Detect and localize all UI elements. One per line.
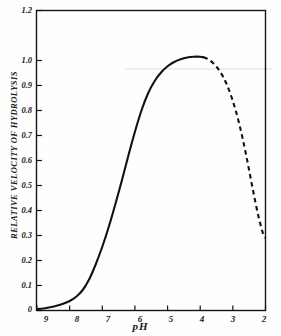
data-curve-extrapolated bbox=[203, 57, 265, 238]
x-axis-ticks bbox=[37, 306, 266, 311]
y-axis-ticks bbox=[37, 11, 42, 311]
plot-area bbox=[0, 0, 281, 336]
axis-frame bbox=[37, 11, 266, 311]
chart-figure: RELATIVE VELOCITY OF HYDROLYSIS 1.2 1.0 … bbox=[0, 0, 281, 336]
data-curve-measured bbox=[37, 57, 203, 310]
